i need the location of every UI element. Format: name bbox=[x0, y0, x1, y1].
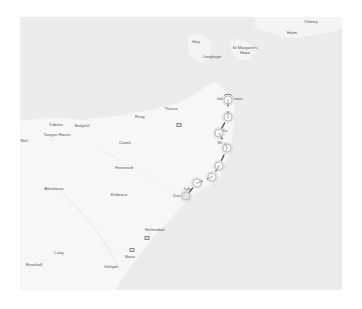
route-marker-stop-3[interactable] bbox=[215, 129, 224, 138]
poi-helmsdale-icon[interactable] bbox=[145, 236, 150, 240]
route-marker-stop-2[interactable] bbox=[224, 113, 233, 122]
place-label-lybster: Lyb bbox=[184, 187, 191, 191]
place-label-rosehall: Rosehall bbox=[26, 263, 42, 267]
place-label-coock: Coock bbox=[119, 141, 131, 145]
place-label-holm: Holm bbox=[287, 31, 297, 35]
place-label-neil: Neil bbox=[20, 139, 27, 143]
place-label-forsinard: Forsinard bbox=[115, 166, 133, 170]
route-marker-stop-5[interactable] bbox=[215, 162, 224, 171]
map-canvas[interactable]: OrkneyHolmHoySt Margaret'sHopeLonghopeJo… bbox=[20, 17, 342, 290]
place-label-longhope: Longhope bbox=[203, 55, 222, 59]
route-marker-stop-7[interactable] bbox=[193, 179, 202, 188]
poi-thurso-icon[interactable] bbox=[177, 123, 182, 127]
place-label-hope: Hope bbox=[240, 51, 250, 55]
place-label-john-o-groats-left: Joh bbox=[217, 97, 224, 101]
place-label-tongue-house: Tongue House bbox=[43, 133, 70, 137]
place-label-hoy: Hoy bbox=[192, 40, 199, 44]
place-label-kinbrace: Kinbrace bbox=[111, 193, 128, 197]
orkney-mainland bbox=[255, 17, 342, 38]
route-marker-stop-6[interactable] bbox=[208, 173, 217, 182]
place-label-thurso: Thurso bbox=[164, 107, 177, 111]
place-label-reay: Reay bbox=[135, 115, 145, 119]
place-label-orkney: Orkney bbox=[304, 20, 318, 24]
place-label-altnaharra: Altnaharra bbox=[44, 187, 63, 191]
place-label-lairg: Lairg bbox=[54, 251, 63, 255]
place-label-golspie: Golspie bbox=[104, 265, 118, 269]
place-label-dunbeath: Dun bbox=[173, 194, 181, 198]
place-label-brora: Brora bbox=[125, 255, 135, 259]
place-label-tubrine: Tubrine bbox=[49, 123, 63, 127]
route-marker-stop-8[interactable] bbox=[182, 192, 191, 201]
poi-brora-icon[interactable] bbox=[130, 248, 135, 252]
place-label-john-o-groats-right: roats bbox=[233, 97, 242, 101]
map-base-layer bbox=[20, 17, 342, 290]
route-marker-stop-4[interactable] bbox=[223, 144, 232, 153]
route-marker-start[interactable] bbox=[224, 96, 233, 105]
place-label-helmsdale: Helmsdale bbox=[145, 228, 165, 232]
place-label-wick: Wi bbox=[218, 141, 223, 145]
place-label-bettyhill: Bettyhill bbox=[75, 124, 90, 128]
